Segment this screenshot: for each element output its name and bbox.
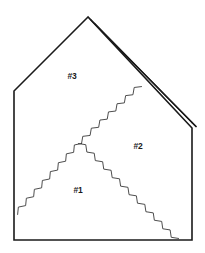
region-label-2: #2 (133, 141, 143, 151)
region-label-3: #3 (67, 71, 77, 81)
diagram-canvas: #3#2#1 (0, 0, 205, 253)
fold-end-cap (192, 123, 196, 127)
region-label-1: #1 (73, 185, 83, 195)
pentagon-outline (14, 17, 192, 240)
folded-sheet-figure: #3#2#1 (0, 0, 205, 253)
